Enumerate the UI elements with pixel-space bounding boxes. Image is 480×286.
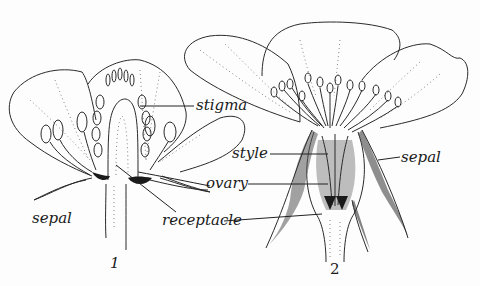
label-ovary: ovary bbox=[206, 176, 248, 191]
figure-number-2: 2 bbox=[330, 262, 340, 277]
label-style: style bbox=[232, 146, 268, 161]
label-sepal-left: sepal bbox=[32, 211, 72, 226]
flower-diagram: stigma sepal style sepal ovary receptacl… bbox=[0, 0, 480, 286]
label-stigma: stigma bbox=[196, 98, 247, 113]
leader-lines bbox=[116, 106, 400, 221]
flower-illustration bbox=[0, 0, 480, 286]
label-sepal-right: sepal bbox=[401, 150, 441, 165]
figure-number-1: 1 bbox=[110, 256, 120, 271]
label-receptacle: receptacle bbox=[162, 213, 242, 228]
